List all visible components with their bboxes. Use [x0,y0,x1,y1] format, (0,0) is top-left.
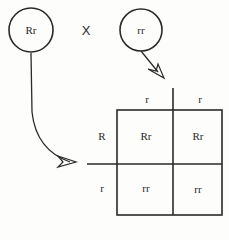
parent2-genotype: rr [137,24,144,36]
parent2-arrowhead-icon [148,64,164,78]
punnett-cell: rr [194,183,201,195]
punnett-cell: rr [142,182,149,194]
punnett-cell: Rr [141,130,152,142]
cross-symbol: X [82,25,91,37]
row-allele-2: r [100,182,104,194]
punnett-cell: Rr [193,130,204,142]
column-allele-1: r [145,93,149,105]
punnett-grid-border [117,110,222,215]
column-allele-2: r [198,93,202,105]
parent1-genotype: Rr [26,24,37,36]
parent1-arrow-line [31,53,70,162]
row-allele-1: R [98,130,105,142]
